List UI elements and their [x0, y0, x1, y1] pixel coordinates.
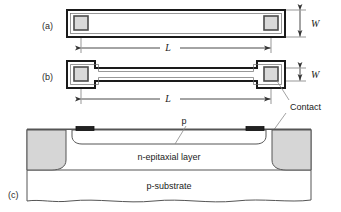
- figure-root: W L (a) W: [0, 0, 341, 212]
- panel-a-resistor-body: [67, 10, 285, 37]
- panel-a-contact-pad-left: [74, 16, 88, 30]
- panel-c-group: p n-epitaxial layer p-substrate (c): [8, 116, 311, 202]
- panel-a-width-label: W: [311, 18, 321, 29]
- substrate-label: p-substrate: [146, 181, 191, 191]
- panel-a-group: W L (a): [42, 10, 321, 53]
- panel-b-resistor-body: [67, 61, 285, 88]
- panel-c-metal-contact-right: [246, 127, 264, 131]
- panel-a-letter: (a): [42, 21, 53, 31]
- epi-layer-label: n-epitaxial layer: [137, 152, 200, 162]
- panel-c-letter: (c): [8, 190, 19, 200]
- panel-b-group: W L (b): [42, 61, 321, 104]
- panel-a-contact-pad-right: [264, 16, 278, 30]
- contact-label: Contact: [290, 102, 322, 112]
- panel-c-metal-contact-left: [76, 127, 94, 131]
- panel-c-isolation-diffusion-left: [27, 130, 66, 170]
- panel-b-contact-pad-left: [74, 67, 88, 81]
- panel-c-p-diffusion-region: [72, 130, 266, 144]
- panel-b-contact-pad-right: [264, 67, 278, 81]
- panel-a-length-label: L: [164, 42, 171, 53]
- contact-leader-to-panel-c: [273, 113, 286, 131]
- panel-b-letter: (b): [42, 72, 53, 82]
- p-region-label: p: [181, 116, 186, 126]
- panel-b-length-label: L: [164, 93, 171, 104]
- panel-c-isolation-diffusion-right: [272, 130, 311, 170]
- panel-b-width-label: W: [311, 69, 321, 80]
- semiconductor-resistor-diagram: W L (a) W: [0, 0, 341, 212]
